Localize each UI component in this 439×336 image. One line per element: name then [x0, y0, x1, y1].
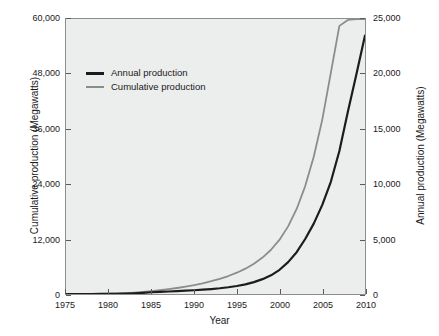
y-tick-label-left: 48,000	[4, 68, 60, 78]
y-tick-label-right: 25,000	[373, 13, 429, 23]
chart-legend: Annual production Cumulative production	[86, 66, 206, 94]
y-tick-mark-left	[66, 295, 71, 296]
chart-figure: Annual production Cumulative production …	[0, 0, 439, 336]
y-tick-mark-right	[360, 73, 365, 74]
plot-area	[65, 18, 366, 295]
x-tick-mark	[237, 289, 238, 294]
y-tick-mark-right	[360, 184, 365, 185]
y-tick-label-left: 0	[4, 290, 60, 300]
y-tick-label-left: 36,000	[4, 124, 60, 134]
x-tick-mark	[151, 289, 152, 294]
x-axis-title: Year	[0, 315, 439, 326]
y-tick-mark-left	[66, 129, 71, 130]
y-tick-label-right: 15,000	[373, 124, 429, 134]
y-tick-label-right: 20,000	[373, 68, 429, 78]
x-tick-mark	[194, 289, 195, 294]
legend-item-annual-production: Annual production	[86, 66, 206, 80]
x-tick-label: 1975	[43, 300, 87, 310]
x-tick-label: 1980	[86, 300, 130, 310]
x-tick-mark	[65, 289, 66, 294]
x-tick-label: 1990	[172, 300, 216, 310]
plot-canvas	[66, 19, 365, 294]
legend-swatch-cumulative-icon	[86, 86, 104, 88]
x-tick-mark	[280, 289, 281, 294]
y-tick-label-left: 24,000	[4, 179, 60, 189]
x-tick-mark	[323, 289, 324, 294]
legend-item-cumulative-production: Cumulative production	[86, 80, 206, 94]
x-tick-label: 1985	[129, 300, 173, 310]
x-tick-label: 1995	[215, 300, 259, 310]
y-tick-mark-left	[66, 184, 71, 185]
y-tick-mark-left	[66, 240, 71, 241]
line-cumulative-production	[66, 19, 365, 294]
y-tick-label-right: 10,000	[373, 179, 429, 189]
legend-swatch-annual-icon	[86, 72, 104, 75]
x-tick-mark	[108, 289, 109, 294]
y-tick-mark-right	[360, 295, 365, 296]
y-tick-label-right: 5,000	[373, 235, 429, 245]
y-tick-label-left: 12,000	[4, 235, 60, 245]
legend-label-annual-production: Annual production	[111, 67, 188, 79]
y-tick-mark-left	[66, 18, 71, 19]
series-lines	[66, 19, 365, 294]
x-tick-label: 2000	[258, 300, 302, 310]
x-tick-label: 2005	[301, 300, 345, 310]
x-tick-mark	[366, 289, 367, 294]
y-tick-mark-left	[66, 73, 71, 74]
legend-label-cumulative-production: Cumulative production	[111, 81, 206, 93]
y-tick-label-right: 0	[373, 290, 429, 300]
y-tick-mark-right	[360, 129, 365, 130]
y-tick-mark-right	[360, 240, 365, 241]
x-tick-label: 2010	[344, 300, 388, 310]
y-tick-mark-right	[360, 18, 365, 19]
y-tick-label-left: 60,000	[4, 13, 60, 23]
